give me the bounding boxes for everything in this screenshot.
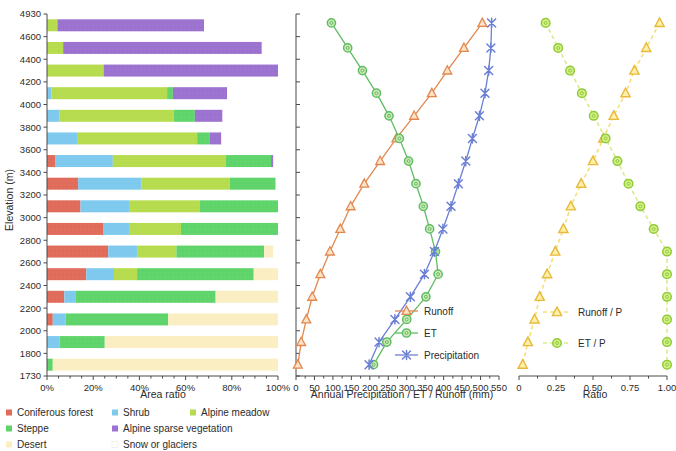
legend-swatch [112, 442, 118, 448]
svg-text:4200: 4200 [20, 76, 41, 87]
legend-label: Alpine meadow [201, 407, 270, 418]
svg-text:3800: 3800 [20, 122, 41, 133]
svg-text:20%: 20% [84, 382, 104, 393]
data-point [468, 134, 476, 143]
legend-swatch [6, 442, 12, 448]
data-point [404, 157, 412, 165]
stacked-bar-group [47, 19, 278, 370]
bar-segment [221, 132, 278, 144]
svg-text:4600: 4600 [20, 31, 41, 42]
legend-item-precipitation: Precipitation [395, 350, 479, 361]
legend-label: Desert [17, 439, 47, 450]
bar-segment [80, 200, 129, 212]
data-point [578, 89, 587, 98]
legend-swatch [6, 410, 12, 416]
legend-item-alpine_sparse_vegetation: Alpine sparse vegetation [112, 423, 233, 434]
right-xlabel-wrap: Ratio [505, 385, 676, 403]
bar-segment [210, 132, 222, 144]
data-point [420, 270, 428, 279]
bar-segment [174, 110, 195, 122]
legend-label: Runoff [424, 306, 454, 317]
bar-segment [104, 223, 129, 235]
data-point [663, 270, 672, 279]
data-point [308, 292, 317, 300]
bar-segment [273, 155, 278, 167]
legend-label: Shrub [123, 407, 150, 418]
right-legend: Runoff / PET / P [543, 307, 623, 349]
legend-item-desert: Desert [6, 439, 47, 450]
legend-item-runoff_p: Runoff / P [543, 307, 623, 318]
bar-segment [57, 19, 204, 31]
data-point [475, 111, 483, 120]
data-point [541, 19, 550, 28]
svg-text:3400: 3400 [20, 167, 41, 178]
data-point [518, 360, 527, 369]
bar-segment [78, 178, 142, 190]
bar-segment [142, 178, 230, 190]
data-point [613, 157, 622, 166]
legend-label: Precipitation [424, 350, 479, 361]
bar-segment [53, 313, 66, 325]
svg-text:2200: 2200 [20, 303, 41, 314]
data-point [488, 18, 496, 27]
series-markers-runoff [293, 18, 486, 368]
bar-segment [77, 132, 197, 144]
svg-text:2400: 2400 [20, 280, 41, 291]
bar-segment [113, 155, 226, 167]
legend-item-et_p: ET / P [543, 338, 606, 349]
bar-segment [47, 359, 53, 371]
data-point [426, 225, 434, 233]
bar-segment [47, 42, 63, 54]
panel-vegetation-area-ratio: 4930460044004200400038003600340032003000… [0, 0, 300, 400]
bar-segment [47, 65, 104, 77]
mid-legend: RunoffETPrecipitation [395, 306, 479, 361]
svg-text:2000: 2000 [20, 325, 41, 336]
legend-label: Steppe [17, 423, 49, 434]
data-point [485, 66, 493, 75]
bar-segment [105, 336, 278, 348]
water-balance-axis-title: Annual Precipitation / ET / Runoff (mm) [311, 388, 493, 400]
data-point [663, 338, 672, 347]
area-ratio-axis-title: Area ratio [140, 388, 186, 400]
svg-text:0%: 0% [40, 382, 54, 393]
svg-text:3200: 3200 [20, 189, 41, 200]
data-point [577, 179, 586, 188]
data-point [624, 179, 633, 188]
figure-root: 4930460044004200400038003600340032003000… [0, 0, 676, 451]
bar-segment [195, 110, 223, 122]
bar-segment [273, 246, 278, 258]
data-point [419, 202, 427, 210]
data-point [663, 293, 672, 302]
data-point [439, 224, 447, 233]
bar-segment [108, 246, 137, 258]
data-point [344, 44, 352, 52]
bar-segment [254, 268, 278, 280]
data-point [346, 202, 355, 210]
data-point [543, 269, 552, 278]
legend-item-coniferous_forest: Coniferous forest [6, 407, 93, 418]
data-point [302, 315, 311, 323]
data-point [391, 315, 399, 324]
data-point [406, 292, 414, 301]
data-point [601, 134, 610, 143]
bar-segment [47, 132, 77, 144]
series-line-et [331, 23, 438, 365]
data-point [327, 19, 335, 27]
svg-text:3600: 3600 [20, 144, 41, 155]
bar-segment [262, 42, 278, 54]
legend-label: Alpine sparse vegetation [123, 423, 233, 434]
bar-segment [227, 87, 278, 99]
data-point [336, 224, 345, 232]
data-point [589, 112, 598, 121]
vegetation-legend: Coniferous forestShrubAlpine meadowStepp… [0, 402, 340, 451]
data-point [326, 247, 335, 255]
data-point [403, 315, 411, 323]
bar-segment [86, 268, 114, 280]
data-point [375, 337, 383, 346]
bar-segment [204, 19, 278, 31]
bar-segment [47, 291, 64, 303]
legend-item-shrub: Shrub [112, 407, 150, 418]
bar-segment [114, 268, 137, 280]
data-point [462, 156, 470, 165]
bar-segment [181, 223, 278, 235]
